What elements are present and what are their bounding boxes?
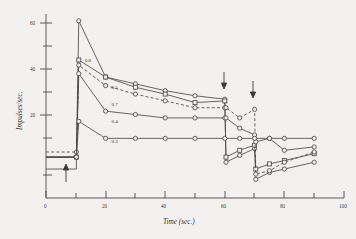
x-tick-label-100: 100 [339,203,347,209]
data-point-marker [193,94,197,98]
data-point-marker [238,153,242,157]
data-point-marker [238,148,242,152]
data-point-marker [223,136,227,140]
data-point-marker [254,172,258,176]
y-tick-label-40: 40 [30,66,36,72]
data-point-marker [74,155,78,159]
data-point-marker [104,83,108,87]
series-label-0-4: 0.4 [112,119,119,124]
data-point-marker [163,99,167,103]
data-point-marker [254,177,258,181]
data-point-marker [77,19,81,23]
data-point-marker [77,72,81,76]
data-point-marker [133,136,137,140]
data-point-marker [267,169,271,173]
data-point-marker [253,136,257,140]
data-point-marker [224,116,228,120]
data-point-marker [193,136,197,140]
x-tick-label-20: 20 [102,203,108,209]
data-point-marker [104,109,108,113]
data-point-marker [77,58,81,62]
y-tick-label-20: 20 [30,112,36,118]
data-point-marker [133,92,137,96]
data-point-marker [267,136,271,140]
data-point-marker [238,136,242,140]
x-axis-title: Time (sec.) [163,218,195,226]
data-point-marker [163,92,167,96]
data-point-marker [282,167,286,171]
data-point-marker [224,106,228,110]
data-point-marker [133,112,137,116]
data-point-marker [282,148,286,152]
y-axis-title: Impulses/sec. [16,91,24,131]
series-label-0-8: 0.8 [85,58,92,63]
data-point-marker [312,145,316,149]
data-point-marker [104,75,108,79]
x-tick-label-40: 40 [161,203,167,209]
data-point-marker [77,63,81,67]
data-point-marker [312,150,316,154]
x-tick-label-60: 60 [221,203,227,209]
data-point-marker [104,136,108,140]
data-point-marker [312,160,316,164]
series-label-0-7: 0.7 [112,102,119,107]
data-point-marker [163,116,167,120]
data-point-marker [193,101,197,105]
data-point-marker [312,136,316,140]
data-point-marker [224,160,228,164]
data-point-marker [238,116,242,120]
data-point-marker [223,99,227,103]
data-point-marker [193,106,197,110]
data-point-marker [163,136,167,140]
data-point-marker [282,136,286,140]
data-point-marker [193,116,197,120]
chart-figure: 60 40 20 0 20 40 60 80 100 Impulses/sec.… [0,0,356,239]
series-label-0-5: 0.5 [112,85,119,90]
data-point-marker [282,160,286,164]
x-tick-label-80: 80 [280,203,286,209]
y-tick-label-60: 60 [30,20,36,26]
data-point-marker [253,107,257,111]
data-point-marker [133,85,137,89]
x-tick-label-0: 0 [44,203,47,209]
series-label-0-3: 0.3 [112,139,119,144]
data-point-marker [224,155,228,159]
data-point-marker [268,162,272,166]
figure-background [0,0,356,239]
data-point-marker [238,126,242,130]
data-point-marker [77,119,81,123]
